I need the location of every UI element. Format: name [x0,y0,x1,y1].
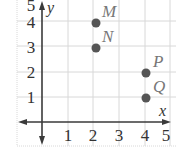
y-tick-4: 4 [27,13,36,32]
y-tick-5: 5 [27,0,36,15]
label-q: Q [153,77,165,96]
x-axis-label: x [158,102,166,119]
coordinate-plane: x y 1 2 3 4 5 1 2 3 4 5 M N P Q [0,0,176,159]
label-p: P [152,52,163,71]
y-axis [39,1,45,145]
point-p [142,69,151,78]
data-points [92,19,151,103]
y-axis-up-arrow-icon [39,1,45,10]
y-tick-3: 3 [27,38,36,57]
y-tick-2: 2 [27,63,36,82]
x-tick-5: 5 [162,126,171,145]
x-tick-1: 1 [64,126,73,145]
point-q [142,94,151,103]
y-axis-label: y [45,0,55,17]
x-tick-3: 3 [115,126,124,145]
point-m [92,19,101,28]
label-n: N [101,27,115,46]
point-n [92,44,101,53]
point-labels: M N P Q [101,2,165,96]
x-axis [18,119,171,125]
x-tick-4: 4 [141,126,150,145]
y-tick-1: 1 [27,88,36,107]
y-tick-labels: 1 2 3 4 5 [27,0,36,107]
x-tick-labels: 1 2 3 4 5 [64,126,171,145]
label-m: M [101,2,117,21]
x-axis-left-arrow-icon [18,119,27,125]
y-axis-down-arrow-icon [39,136,45,145]
x-tick-2: 2 [89,126,98,145]
